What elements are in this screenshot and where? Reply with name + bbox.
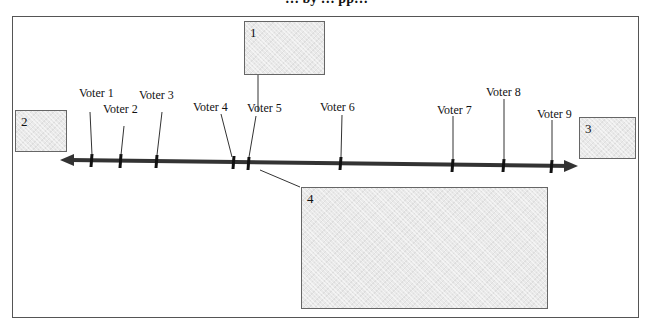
voter-5-label: Voter 5 bbox=[247, 101, 282, 116]
voter-3-label: Voter 3 bbox=[139, 88, 174, 103]
right-arrow-icon bbox=[564, 160, 578, 172]
voter-7-label: Voter 7 bbox=[437, 103, 472, 118]
box-number: 4 bbox=[307, 191, 314, 207]
callout-box-1: 1 bbox=[244, 21, 325, 75]
voter-9-label: Voter 9 bbox=[537, 107, 572, 122]
voter-8-label: Voter 8 bbox=[486, 85, 521, 100]
box-number: 3 bbox=[585, 121, 592, 137]
spectrum-axis bbox=[70, 160, 572, 166]
callout-box-4: 4 bbox=[301, 187, 548, 309]
voter-4-label: Voter 4 bbox=[193, 100, 228, 115]
left-arrow-icon bbox=[60, 154, 74, 166]
box-number: 2 bbox=[21, 114, 28, 130]
voter-2-label: Voter 2 bbox=[103, 102, 138, 117]
voter-1-label: Voter 1 bbox=[79, 86, 114, 101]
box-number: 1 bbox=[250, 25, 257, 41]
callout-box-2: 2 bbox=[15, 110, 67, 152]
voter-6-label: Voter 6 bbox=[320, 100, 355, 115]
callout-box-3: 3 bbox=[579, 117, 636, 159]
